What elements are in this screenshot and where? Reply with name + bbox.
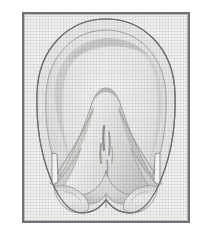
figure-root: Solar surface of the equine hoof [0, 0, 205, 241]
heel-notch-left [52, 153, 58, 185]
figure-title: Solar surface of the equine hoof [0, 21, 1, 22]
hoof-illustration [24, 14, 188, 221]
illustration-frame [22, 12, 190, 223]
heel-notch-right [154, 153, 160, 185]
